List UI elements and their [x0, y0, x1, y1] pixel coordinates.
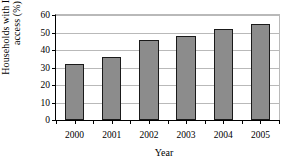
y-axis-title: Households with Internet access (%)	[0, 0, 30, 88]
x-tick-mark	[260, 120, 261, 124]
x-tick-mark-boundary	[93, 120, 94, 124]
x-tick-mark	[112, 120, 113, 124]
y-tick-label: 10	[41, 98, 51, 108]
x-tick-label: 2003	[177, 130, 196, 140]
bar	[139, 40, 158, 121]
x-tick-label: 2002	[139, 130, 158, 140]
x-tick-mark-boundary	[279, 120, 280, 124]
bar	[65, 64, 84, 120]
x-tick-label: 2004	[214, 130, 233, 140]
x-tick-mark	[186, 120, 187, 124]
y-tick-label: 50	[41, 28, 51, 38]
x-axis-title: Year	[45, 147, 283, 158]
y-tick-label: 30	[41, 63, 51, 73]
x-tick-mark	[75, 120, 76, 124]
bar	[176, 36, 195, 120]
y-tick-label: 0	[45, 115, 50, 125]
x-tick-label: 2001	[102, 130, 121, 140]
x-tick-mark-boundary	[56, 120, 57, 124]
y-tick-label: 20	[41, 80, 51, 90]
plot-area: 0102030405060 200020012002200320042005	[55, 14, 280, 121]
x-tick-mark-boundary	[242, 120, 243, 124]
bar	[102, 57, 121, 120]
bar-series	[56, 15, 279, 120]
x-tick-label: 2000	[65, 130, 84, 140]
y-tick-label: 60	[41, 10, 51, 20]
x-tick-mark-boundary	[168, 120, 169, 124]
y-tick-label: 40	[41, 45, 51, 55]
y-axis-title-line2: access (%)	[11, 0, 22, 88]
bar	[214, 29, 233, 120]
x-tick-mark-boundary	[130, 120, 131, 124]
bar-chart: Households with Internet access (%) 0102…	[0, 0, 289, 165]
x-tick-mark	[149, 120, 150, 124]
x-tick-label: 2005	[251, 130, 270, 140]
x-tick-mark	[223, 120, 224, 124]
bar	[251, 24, 270, 120]
x-tick-mark-boundary	[205, 120, 206, 124]
y-axis-title-line1: Households with Internet	[0, 0, 11, 88]
